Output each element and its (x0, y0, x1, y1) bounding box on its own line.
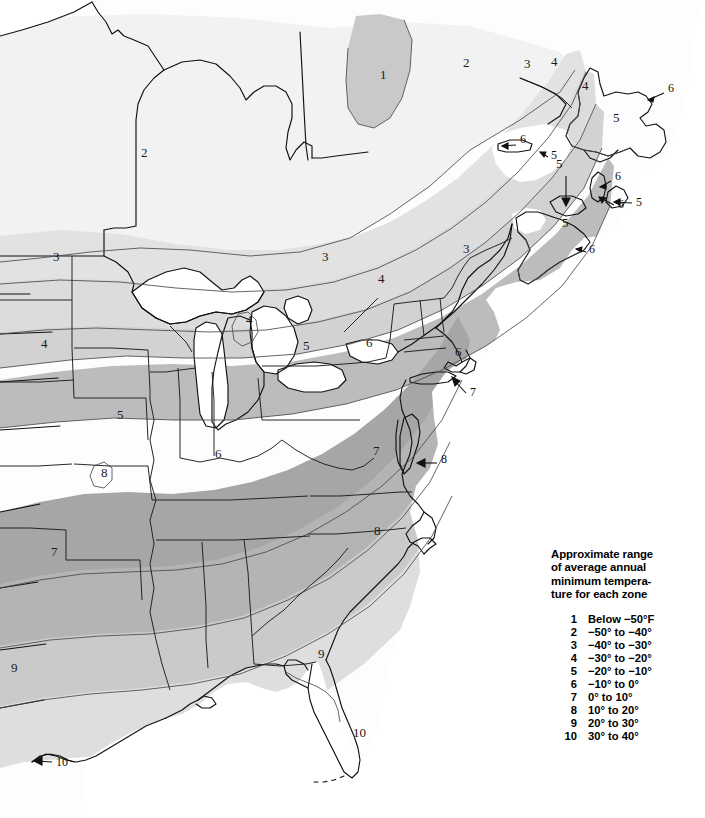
zone-label: 7 (51, 544, 58, 559)
legend-row: 10 30° to 40° (551, 730, 703, 743)
legend-zone-number: 1 (551, 613, 577, 626)
zone-label: 10 (353, 725, 366, 740)
legend-zone-number: 6 (551, 678, 577, 691)
zone-label: 7 (373, 443, 380, 458)
zone-label: 1 (380, 67, 387, 82)
callout-label: 6 (668, 81, 674, 95)
legend-zone-range: 10° to 20° (577, 704, 639, 717)
callout-label: 6 (520, 132, 526, 146)
zone-label: 2 (141, 145, 148, 160)
zone-label: 4 (582, 78, 589, 93)
legend-zone-number: 9 (551, 717, 577, 730)
zone-label: 3 (524, 56, 531, 71)
zone-label: 5 (613, 110, 620, 125)
legend-zone-range: 0° to 10° (577, 691, 632, 704)
zone-label: 4 (378, 271, 385, 286)
callout-label: 5 (636, 195, 642, 209)
legend-zone-number: 5 (551, 665, 577, 678)
zone-label: 5 (303, 338, 310, 353)
legend-zone-range: −10° to 0° (577, 678, 639, 691)
legend-zone-range: −20° to −10° (577, 665, 652, 678)
zone-label: 6 (215, 446, 222, 461)
callout-label: 10 (56, 755, 68, 769)
zone-label: 8 (101, 465, 108, 480)
zone-label: 9 (11, 660, 18, 675)
legend-row: 6 −10° to 0° (551, 678, 703, 691)
zone-label: 3 (53, 249, 60, 264)
zone-label: 4 (246, 312, 253, 327)
legend-zone-range: 20° to 30° (577, 717, 639, 730)
callout-label: 5 (551, 148, 557, 162)
legend-row: 3 −40° to −30° (551, 639, 703, 652)
legend-zone-number: 10 (551, 730, 577, 743)
legend-zone-number: 7 (551, 691, 577, 704)
legend-rows: 1 Below −50°F 2 −50° to −40° 3 −40° to −… (551, 613, 703, 744)
legend-row: 4 −30° to −20° (551, 652, 703, 665)
zone-label: 4 (551, 54, 558, 69)
legend-zone-range: −50° to −40° (577, 626, 652, 639)
legend-row: 9 20° to 30° (551, 717, 703, 730)
legend-zone-range: Below −50°F (577, 613, 654, 626)
map-legend: Approximate range of average annual mini… (551, 548, 703, 744)
zone-label: 5 (562, 215, 569, 230)
hardiness-zone-map-page: 1 2 2 3 4 4 5 5 5 3 3 3 4 4 4 5 5 (0, 0, 705, 818)
callout-label: 6 (618, 197, 624, 211)
legend-zone-number: 3 (551, 639, 577, 652)
legend-row: 1 Below −50°F (551, 613, 703, 626)
zone-label: 3 (463, 241, 470, 256)
zone-label: 9 (318, 646, 325, 661)
legend-row: 7 0° to 10° (551, 691, 703, 704)
legend-zone-range: −30° to −20° (577, 652, 652, 665)
legend-zone-number: 2 (551, 626, 577, 639)
zone-label: 8 (374, 523, 381, 538)
legend-row: 8 10° to 20° (551, 704, 703, 717)
callout-label: 6 (615, 169, 621, 183)
legend-zone-range: −40° to −30° (577, 639, 652, 652)
callout-label: 8 (441, 452, 447, 466)
zone-label: 4 (41, 336, 48, 351)
zone-label: 5 (117, 407, 124, 422)
callout-label: 7 (470, 385, 476, 399)
zone-label: 3 (322, 249, 329, 264)
zone-label: 6 (366, 335, 373, 350)
legend-row: 2 −50° to −40° (551, 626, 703, 639)
legend-zone-range: 30° to 40° (577, 730, 639, 743)
legend-heading: Approximate range of average annual mini… (551, 548, 703, 602)
legend-zone-number: 8 (551, 704, 577, 717)
callout-label: 6 (589, 242, 595, 256)
zone-label: 6 (455, 344, 462, 359)
legend-row: 5 −20° to −10° (551, 665, 703, 678)
zone-label: 2 (463, 55, 470, 70)
legend-zone-number: 4 (551, 652, 577, 665)
